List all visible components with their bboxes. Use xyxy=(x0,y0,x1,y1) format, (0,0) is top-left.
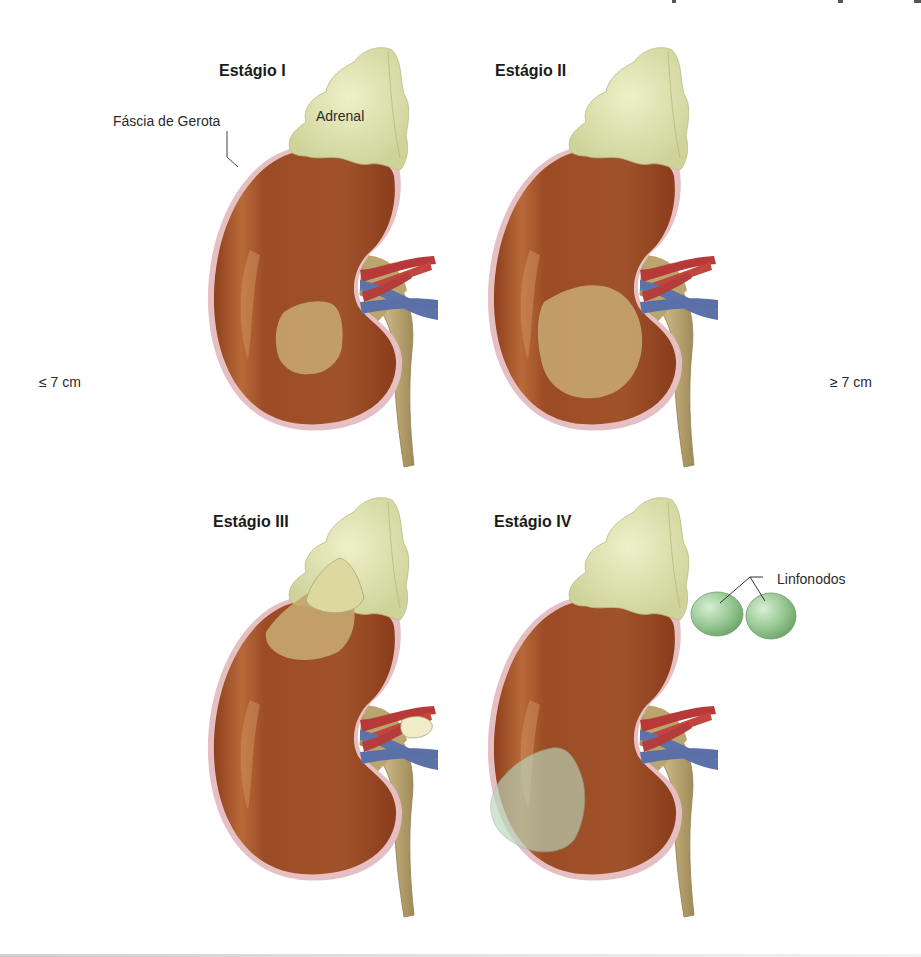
page-edge-mark xyxy=(838,0,843,3)
gerota-fascia-label: Fáscia de Gerota xyxy=(113,113,220,129)
adrenal-label: Adrenal xyxy=(316,108,364,124)
stage-3-title: Estágio III xyxy=(213,513,289,531)
size-label-large: ≥ 7 cm xyxy=(830,374,872,390)
lymph-node-left xyxy=(691,592,743,636)
panel-stage-3 xyxy=(208,498,438,917)
kidney-staging-figure: Estágio I Estágio II Estágio III Estágio… xyxy=(0,0,921,957)
stage-1-title: Estágio I xyxy=(219,62,286,80)
panel-stage-2 xyxy=(488,48,718,467)
lymph-nodes-label: Linfonodos xyxy=(777,571,846,587)
tumor-large xyxy=(538,285,642,398)
illustration xyxy=(0,0,921,957)
tumor-small xyxy=(276,301,343,374)
lymph-node-right xyxy=(746,593,796,639)
page-edge-mark xyxy=(672,0,676,3)
stage-2-title: Estágio II xyxy=(495,62,566,80)
renal-vein-thrombus xyxy=(401,717,433,738)
stage-4-title: Estágio IV xyxy=(494,513,571,531)
page-edge-mark xyxy=(914,0,921,3)
gerota-leader xyxy=(227,131,238,167)
size-label-small: ≤ 7 cm xyxy=(39,374,81,390)
panel-stage-4 xyxy=(488,498,718,917)
